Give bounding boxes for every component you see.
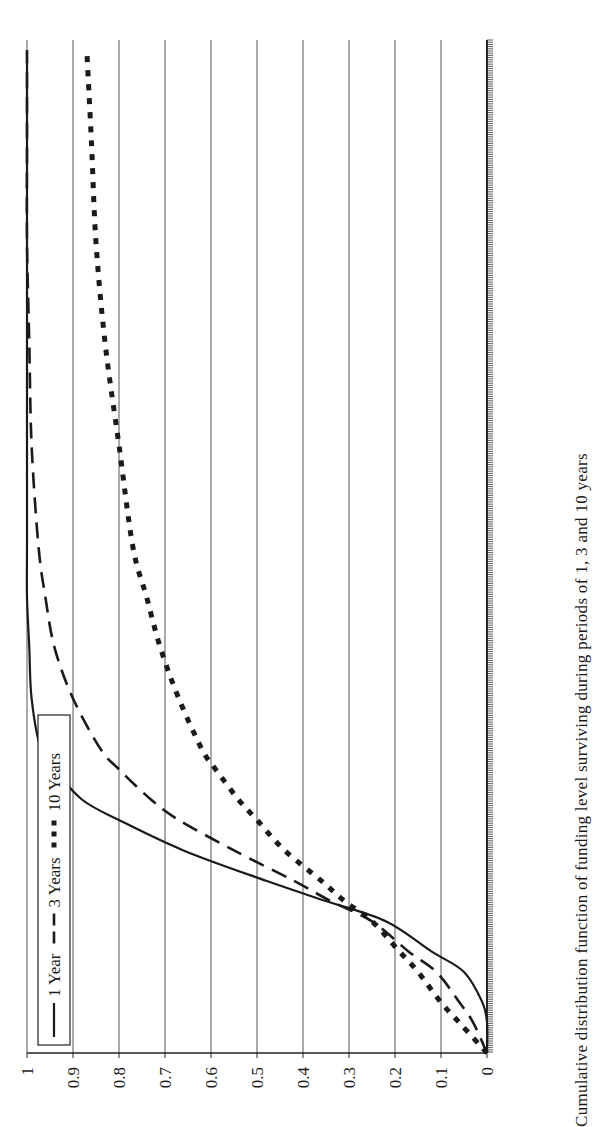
y-axis: 00.10.20.30.40.50.60.70.80.91 [18, 1053, 497, 1088]
y-tick-label: 0.6 [202, 1067, 221, 1088]
y-tick-label: 0.1 [432, 1067, 451, 1088]
legend-label: 3 Years [45, 857, 64, 907]
cdf-line-chart: 00.10.20.30.40.50.60.70.80.91 1 Year3 Ye… [0, 0, 593, 1127]
y-tick-label: 0.9 [64, 1067, 83, 1088]
y-tick-label: 0.8 [110, 1067, 129, 1088]
legend-items: 1 Year3 Years10 Years [45, 753, 64, 1037]
y-tick-label: 0.4 [294, 1067, 313, 1089]
legend: 1 Year3 Years10 Years [38, 715, 70, 1045]
y-tick-label: 0.7 [156, 1067, 175, 1089]
y-tick-label: 0 [478, 1067, 497, 1076]
gridlines [27, 40, 487, 1053]
x-axis [487, 40, 493, 1053]
series-line-10-years [87, 50, 487, 1053]
y-tick-label: 1 [18, 1067, 37, 1076]
legend-label: 1 Year [45, 953, 64, 997]
figure-caption: Cumulative distribution function of fund… [572, 0, 593, 1127]
y-tick-label: 0.5 [248, 1067, 267, 1088]
y-tick-label: 0.2 [386, 1067, 405, 1088]
chart-figure: 00.10.20.30.40.50.60.70.80.91 1 Year3 Ye… [0, 0, 593, 1127]
y-tick-label: 0.3 [340, 1067, 359, 1088]
legend-label: 10 Years [45, 753, 64, 812]
